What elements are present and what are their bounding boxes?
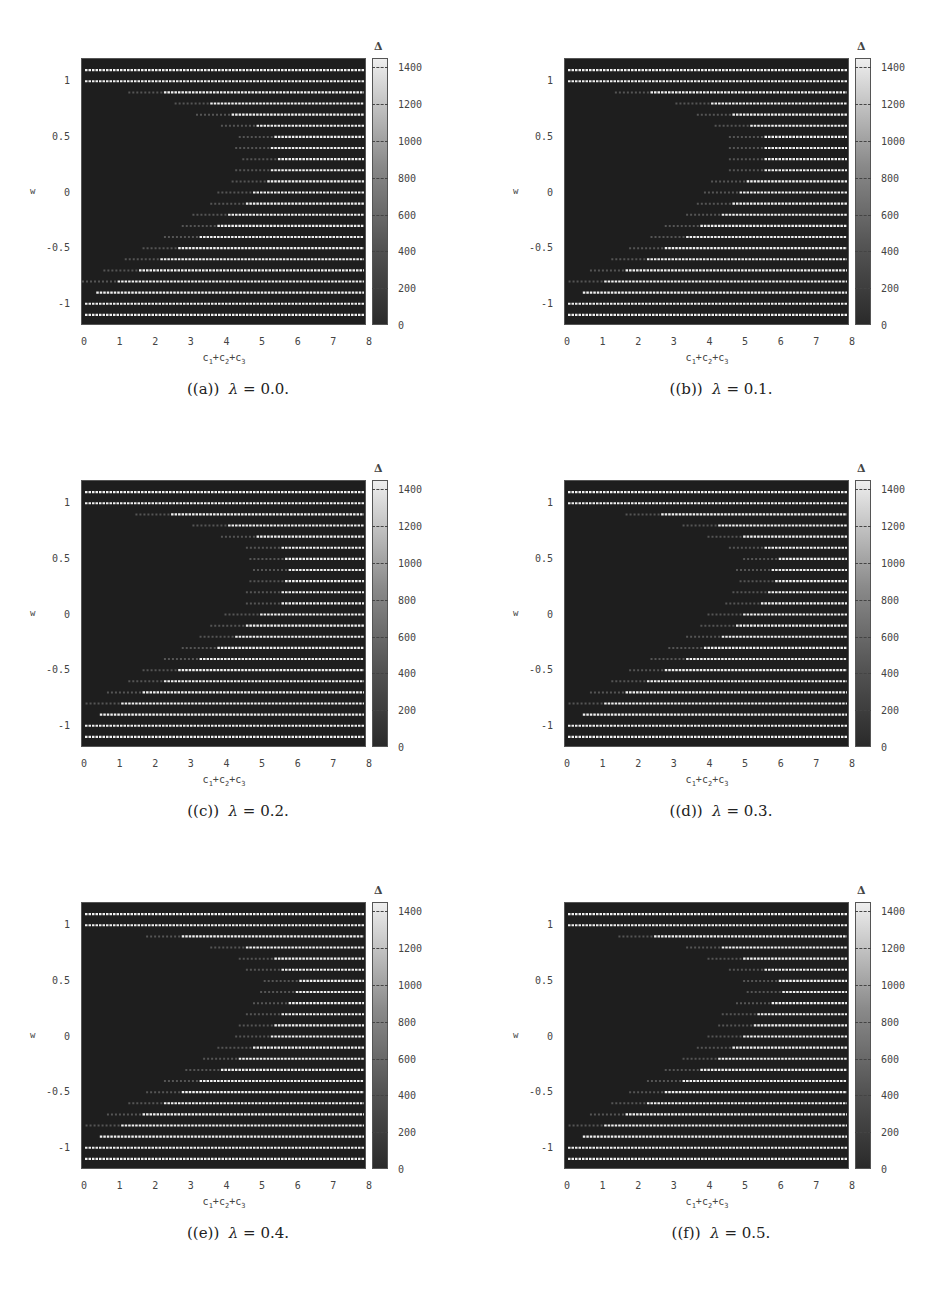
x-tick-label: 1 bbox=[600, 758, 606, 769]
colorbar-tick-mark bbox=[372, 1095, 388, 1096]
colorbar-tick-label: 200 bbox=[398, 283, 416, 294]
colorbar-tick-label: 200 bbox=[398, 1127, 416, 1138]
colorbar-title: Δ bbox=[857, 462, 866, 475]
colorbar-tick-mark bbox=[855, 251, 871, 252]
caption-label: ((b)) bbox=[670, 380, 703, 398]
y-tick-label: 1 bbox=[64, 919, 70, 930]
x-tick-label: 4 bbox=[223, 758, 229, 769]
x-tick-label: 2 bbox=[152, 758, 158, 769]
caption-label: ((d)) bbox=[670, 802, 703, 820]
colorbar-tick-mark bbox=[855, 911, 871, 912]
x-tick-label: 1 bbox=[600, 336, 606, 347]
x-tick-label: 1 bbox=[117, 1180, 123, 1191]
colorbar-tick-label: 0 bbox=[881, 320, 887, 331]
y-tick-label: -0.5 bbox=[46, 664, 70, 675]
y-tick-label: 0 bbox=[64, 1030, 70, 1041]
colorbar-tick-label: 1400 bbox=[881, 62, 905, 73]
y-tick-label: 0 bbox=[64, 186, 70, 197]
colorbar-tick-label: 1000 bbox=[398, 979, 422, 990]
colorbar-tick-label: 1000 bbox=[398, 135, 422, 146]
caption-value: = 0.0. bbox=[238, 380, 289, 398]
colorbar bbox=[372, 58, 388, 325]
panel-caption: ((e)) λ = 0.4. bbox=[187, 1224, 289, 1242]
x-tick-label: 4 bbox=[706, 336, 712, 347]
colorbar-tick-label: 600 bbox=[398, 209, 416, 220]
colorbar-tick-mark bbox=[855, 215, 871, 216]
y-tick-label: 0 bbox=[64, 608, 70, 619]
colorbar-tick-mark bbox=[372, 1022, 388, 1023]
heatmap-panel-a: Δ w c1+c2+c3 ((a)) λ = 0.0. 10.50-0.5-10… bbox=[0, 30, 476, 452]
colorbar-tick-label: 800 bbox=[881, 1016, 899, 1027]
colorbar-title: Δ bbox=[374, 462, 383, 475]
x-tick-label: 1 bbox=[117, 336, 123, 347]
colorbar-tick-mark bbox=[372, 637, 388, 638]
x-tick-label: 2 bbox=[635, 758, 641, 769]
heatmap-panel-b: Δ w c1+c2+c3 ((b)) λ = 0.1. 10.50-0.5-10… bbox=[483, 30, 952, 452]
colorbar bbox=[372, 902, 388, 1169]
x-tick-label: 2 bbox=[635, 1180, 641, 1191]
colorbar-title: Δ bbox=[857, 40, 866, 53]
x-tick-label: 8 bbox=[849, 1180, 855, 1191]
caption-lambda: λ bbox=[229, 802, 239, 820]
colorbar-tick-mark bbox=[372, 288, 388, 289]
colorbar-tick-label: 600 bbox=[881, 1053, 899, 1064]
x-tick-label: 6 bbox=[295, 336, 301, 347]
colorbar-tick-label: 800 bbox=[398, 172, 416, 183]
colorbar-tick-mark bbox=[855, 637, 871, 638]
colorbar-tick-label: 1000 bbox=[881, 557, 905, 568]
caption-value: = 0.3. bbox=[722, 802, 773, 820]
colorbar-tick-mark bbox=[372, 985, 388, 986]
colorbar bbox=[372, 480, 388, 747]
caption-lambda: λ bbox=[229, 1224, 239, 1242]
colorbar-tick-mark bbox=[855, 67, 871, 68]
colorbar bbox=[855, 902, 871, 1169]
colorbar-tick-label: 600 bbox=[881, 631, 899, 642]
colorbar-tick-label: 600 bbox=[881, 209, 899, 220]
plot-area bbox=[81, 480, 366, 747]
caption-value: = 0.5. bbox=[720, 1224, 771, 1242]
x-tick-label: 6 bbox=[778, 758, 784, 769]
x-tick-label: 6 bbox=[295, 1180, 301, 1191]
x-axis-label: c1+c2+c3 bbox=[686, 352, 729, 366]
colorbar-tick-label: 0 bbox=[881, 1164, 887, 1175]
colorbar-tick-label: 1000 bbox=[398, 557, 422, 568]
colorbar-tick-label: 200 bbox=[881, 283, 899, 294]
y-tick-label: 1 bbox=[547, 919, 553, 930]
caption-value: = 0.4. bbox=[238, 1224, 289, 1242]
colorbar-tick-label: 0 bbox=[881, 742, 887, 753]
colorbar-tick-mark bbox=[372, 67, 388, 68]
colorbar-tick-label: 800 bbox=[881, 172, 899, 183]
caption-lambda: λ bbox=[710, 1224, 720, 1242]
x-tick-label: 8 bbox=[366, 758, 372, 769]
colorbar bbox=[855, 480, 871, 747]
colorbar-tick-mark bbox=[855, 673, 871, 674]
panel-caption: ((c)) λ = 0.2. bbox=[187, 802, 289, 820]
colorbar-tick-label: 1400 bbox=[398, 484, 422, 495]
caption-label: ((c)) bbox=[187, 802, 219, 820]
colorbar-tick-mark bbox=[372, 1059, 388, 1060]
y-tick-label: -1 bbox=[58, 1141, 70, 1152]
x-axis-label: c1+c2+c3 bbox=[203, 1196, 246, 1210]
colorbar-title: Δ bbox=[857, 884, 866, 897]
y-tick-label: 1 bbox=[547, 497, 553, 508]
colorbar-tick-label: 1400 bbox=[398, 62, 422, 73]
colorbar-tick-mark bbox=[372, 710, 388, 711]
caption-value: = 0.1. bbox=[722, 380, 773, 398]
y-tick-label: 0.5 bbox=[535, 974, 553, 985]
colorbar-tick-mark bbox=[372, 215, 388, 216]
x-tick-label: 3 bbox=[188, 1180, 194, 1191]
heatmap-panel-c: Δ w c1+c2+c3 ((c)) λ = 0.2. 10.50-0.5-10… bbox=[0, 452, 476, 874]
heatmap-panel-e: Δ w c1+c2+c3 ((e)) λ = 0.4. 10.50-0.5-10… bbox=[0, 874, 476, 1295]
y-tick-label: -1 bbox=[541, 297, 553, 308]
x-tick-label: 2 bbox=[152, 1180, 158, 1191]
x-tick-label: 3 bbox=[188, 336, 194, 347]
y-axis-label: w bbox=[30, 608, 35, 618]
heatmap-panel-d: Δ w c1+c2+c3 ((d)) λ = 0.3. 10.50-0.5-10… bbox=[483, 452, 952, 874]
x-tick-label: 7 bbox=[330, 1180, 336, 1191]
y-axis-label: w bbox=[30, 1030, 35, 1040]
heatmap-rows bbox=[565, 903, 849, 1169]
colorbar-tick-label: 1200 bbox=[398, 943, 422, 954]
x-tick-label: 8 bbox=[849, 336, 855, 347]
x-tick-label: 4 bbox=[223, 336, 229, 347]
colorbar-tick-mark bbox=[855, 1095, 871, 1096]
